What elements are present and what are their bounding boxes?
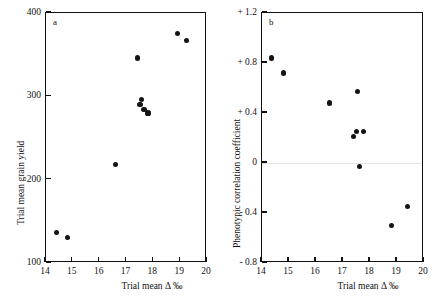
data-point xyxy=(145,110,150,115)
x-tick-label: 20 xyxy=(408,266,433,276)
x-tick-mark xyxy=(395,257,396,262)
y-tick-mark xyxy=(262,161,267,162)
y-axis-title-b: Phenotypic correlation coefficient xyxy=(232,119,242,248)
data-point xyxy=(54,230,59,235)
x-tick-label: 19 xyxy=(164,266,194,276)
x-tick-label: 15 xyxy=(57,266,87,276)
y-tick-label: - 0.4 xyxy=(215,207,257,217)
x-tick-mark xyxy=(205,257,206,262)
data-point xyxy=(357,164,362,169)
data-point xyxy=(405,204,410,209)
x-tick-mark xyxy=(71,257,72,262)
x-tick-mark xyxy=(422,257,423,262)
y-tick-mark xyxy=(46,11,51,12)
plot-area-a xyxy=(45,12,206,262)
x-tick-mark xyxy=(179,257,180,262)
y-tick-label: + 0.4 xyxy=(215,107,257,117)
panel-label-b: b xyxy=(269,17,274,27)
data-point xyxy=(281,70,286,75)
x-tick-label: 18 xyxy=(354,266,384,276)
y-tick-mark xyxy=(262,11,267,12)
data-point xyxy=(355,89,360,94)
y-tick-label: 200 xyxy=(0,174,41,184)
data-point xyxy=(139,97,144,102)
x-tick-mark xyxy=(368,257,369,262)
panel-b: b Trial mean Δ ‰ Phenotypic correlation … xyxy=(214,0,428,301)
y-tick-mark xyxy=(262,111,267,112)
x-tick-label: 14 xyxy=(30,266,60,276)
data-point xyxy=(135,55,140,60)
y-tick-label: + 1.2 xyxy=(215,7,257,17)
y-tick-label: 400 xyxy=(0,7,41,17)
x-tick-mark xyxy=(98,257,99,262)
x-tick-label: 17 xyxy=(327,266,357,276)
panel-a: a Trial mean Δ ‰ Trial mean grain yield … xyxy=(0,0,214,301)
data-point xyxy=(65,235,70,240)
y-tick-label: - 0.8 xyxy=(215,257,257,267)
x-tick-mark xyxy=(152,257,153,262)
y-tick-mark xyxy=(262,261,267,262)
y-tick-label: 0 xyxy=(215,157,257,167)
x-tick-label: 14 xyxy=(246,266,276,276)
x-tick-label: 16 xyxy=(84,266,114,276)
x-tick-label: 19 xyxy=(381,266,411,276)
y-tick-label: 300 xyxy=(0,90,41,100)
data-point xyxy=(389,223,394,228)
zero-reference-line xyxy=(262,163,422,164)
panel-label-a: a xyxy=(53,17,57,27)
y-tick-label: + 0.8 xyxy=(215,57,257,67)
y-tick-mark xyxy=(46,95,51,96)
x-tick-mark xyxy=(287,257,288,262)
data-point xyxy=(354,129,359,134)
x-tick-mark xyxy=(125,257,126,262)
y-tick-mark xyxy=(262,61,267,62)
x-tick-label: 18 xyxy=(137,266,167,276)
x-tick-mark xyxy=(314,257,315,262)
data-point xyxy=(351,134,356,139)
y-tick-mark xyxy=(262,211,267,212)
x-tick-label: 17 xyxy=(111,266,141,276)
data-point xyxy=(327,100,332,105)
data-point xyxy=(361,129,366,134)
x-tick-label: 15 xyxy=(273,266,303,276)
y-tick-mark xyxy=(46,178,51,179)
data-point xyxy=(175,31,180,36)
x-tick-label: 16 xyxy=(300,266,330,276)
data-point xyxy=(269,55,274,60)
data-point xyxy=(184,38,189,43)
x-tick-mark xyxy=(341,257,342,262)
x-axis-title-b: Trial mean Δ ‰ xyxy=(268,281,433,291)
y-tick-label: 100 xyxy=(0,257,41,267)
data-point xyxy=(113,162,118,167)
plot-area-b xyxy=(261,12,423,262)
y-tick-mark xyxy=(46,261,51,262)
